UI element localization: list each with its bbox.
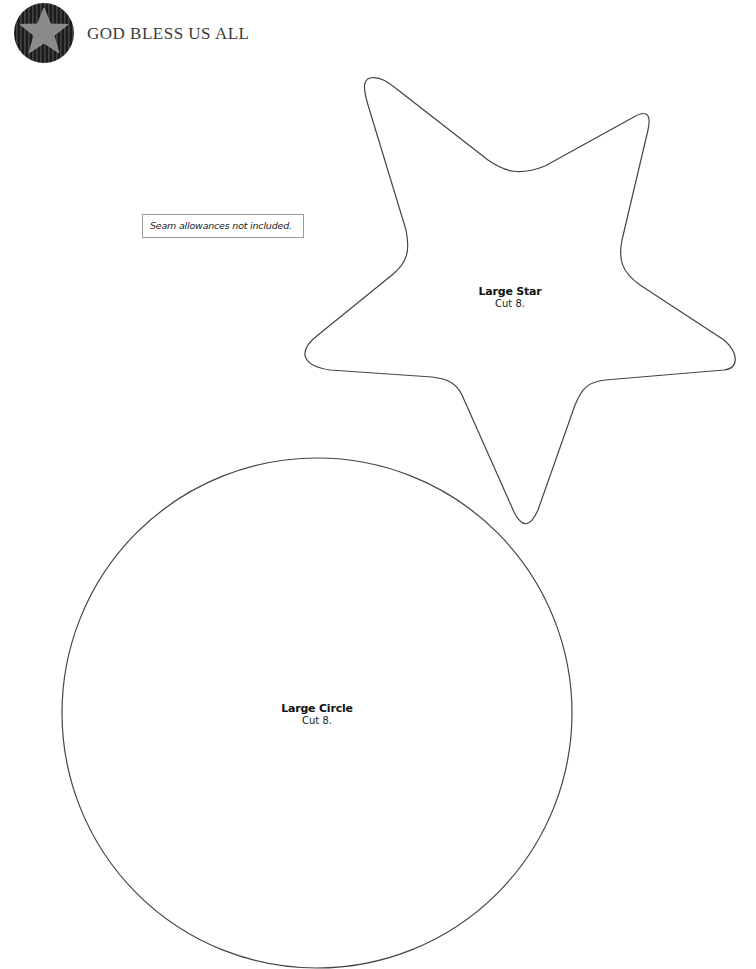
- cut-instruction: Cut 8.: [267, 715, 367, 727]
- piece-name: Large Circle: [267, 703, 367, 715]
- cut-instruction: Cut 8.: [462, 298, 558, 310]
- pattern-shapes: [0, 0, 756, 969]
- large-star-label: Large Star Cut 8.: [462, 286, 558, 310]
- piece-name: Large Star: [462, 286, 558, 298]
- large-circle-label: Large Circle Cut 8.: [267, 703, 367, 727]
